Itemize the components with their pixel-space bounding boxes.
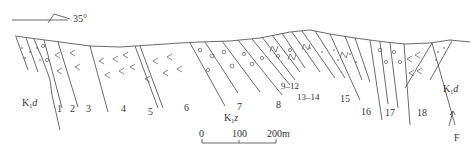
bed-label: 9–12 (281, 81, 299, 91)
cross-section-diagram: 35° (0, 0, 472, 150)
strike-angle-label: 35° (73, 13, 87, 24)
formation-label-k1d-left: K1d (22, 97, 38, 109)
bed-label: 18 (417, 107, 427, 118)
bed-label: 5 (148, 106, 153, 117)
lithology-v-marks (55, 50, 422, 82)
formation-label-k1z: K1z (224, 112, 238, 124)
bed-label: 13–14 (297, 92, 320, 102)
bed-label: 8 (276, 99, 281, 110)
scale-tick-200m: 200m (267, 128, 290, 139)
bed-label: 7 (237, 101, 242, 112)
fault-label: F (454, 132, 460, 143)
bed-label: 2 (70, 103, 75, 114)
scale-bar: 0 100 200m (199, 128, 290, 143)
bed-label: 1 (57, 103, 62, 114)
formation-label-k1d-right: K1d (443, 83, 459, 95)
bed-labels: 1 2 3 4 5 6 7 8 9–12 13–14 15 16 17 18 (57, 81, 427, 118)
surface-profile (15, 30, 470, 47)
bed-label: 17 (385, 107, 395, 118)
bed-label: 3 (86, 103, 91, 114)
bed-label: 15 (340, 93, 350, 104)
bed-label: 6 (184, 102, 189, 113)
lithology-n-marks (270, 44, 348, 60)
bed-label: 16 (361, 106, 371, 117)
scale-tick-100: 100 (232, 128, 247, 139)
fault-marker: F (449, 111, 460, 143)
strike-direction-indicator: 35° (12, 13, 87, 24)
bed-label: 4 (121, 103, 126, 114)
scale-tick-0: 0 (199, 128, 204, 139)
